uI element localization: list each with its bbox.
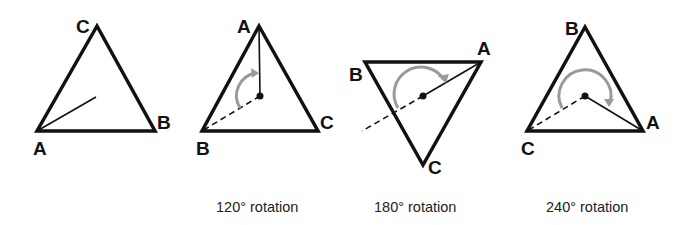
rotation-arc	[559, 70, 611, 108]
panel-rotation-120: A B C 120° rotation	[196, 16, 334, 215]
triangle-original	[37, 26, 155, 131]
caption-180: 180° rotation	[374, 199, 456, 215]
arrow-head-icon	[604, 99, 614, 107]
vertex-label-right: B	[157, 112, 171, 133]
vertex-label-top: B	[565, 18, 579, 39]
vertex-label-left: A	[33, 138, 47, 159]
center-dot	[257, 93, 264, 100]
vertex-label-bottom: C	[428, 157, 442, 178]
panel-rotation-180: B A C 180° rotation	[349, 38, 491, 215]
center-dot	[420, 93, 427, 100]
caption-240: 240° rotation	[546, 199, 628, 215]
vertex-label-right: A	[477, 38, 491, 59]
triangle-rotation-diagram: C A B A B C 120° rotation B A C 180° rot…	[0, 0, 687, 225]
rotated-ray	[259, 26, 260, 96]
vertex-label-right: A	[646, 112, 660, 133]
original-ray-dashed	[362, 96, 423, 131]
vertex-label-top: C	[76, 16, 90, 37]
panel-original: C A B	[33, 16, 171, 159]
panel-rotation-240: B C A 240° rotation	[521, 18, 660, 215]
vertex-label-left: B	[349, 64, 363, 85]
arrow-head-icon	[251, 68, 259, 78]
caption-120: 120° rotation	[216, 199, 298, 215]
triangle-rotated-240	[527, 27, 643, 131]
vertex-label-right: C	[320, 112, 334, 133]
vertex-label-left: C	[521, 138, 535, 159]
vertex-label-top: A	[237, 16, 251, 37]
center-dot	[582, 93, 589, 100]
triangle-rotated-180	[365, 62, 481, 165]
rotation-arc	[236, 73, 256, 108]
vertex-label-left: B	[196, 138, 210, 159]
